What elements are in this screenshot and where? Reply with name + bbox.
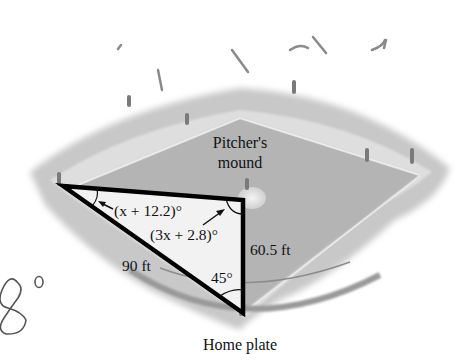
side-label-hypotenuse: 90 ft [122,257,152,274]
pitchers-mound-label-line2: mound [218,154,262,171]
home-plate-label: Home plate [203,336,277,354]
handwritten-mark [0,277,43,335]
side-label-vertical: 60.5 ft [250,241,291,258]
angle-label-top-right: (3x + 2.8)° [150,226,218,244]
angle-label-bottom: 45° [211,269,233,286]
pitchers-mound-label-line1: Pitcher's [213,134,267,151]
angle-label-top-left: (x + 12.2)° [114,202,182,220]
diagram-canvas: Pitcher's mound (x + 12.2)° (3x + 2.8)° … [0,0,471,364]
background-scribbles [118,37,386,90]
baseball-diagram: Pitcher's mound (x + 12.2)° (3x + 2.8)° … [0,0,471,364]
